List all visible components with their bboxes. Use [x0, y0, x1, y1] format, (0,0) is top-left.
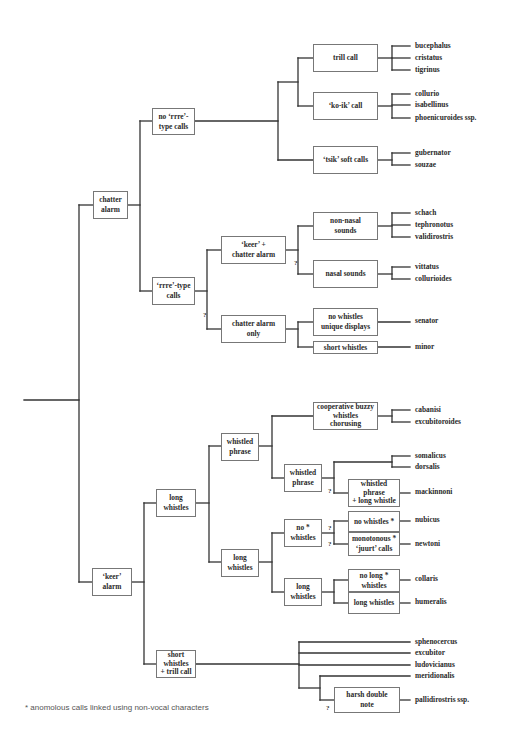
node-long-whistles-4: long whistles — [348, 592, 400, 614]
species-label: pallidirostris ssp. — [415, 695, 469, 705]
species-label: cabanisi — [415, 405, 441, 415]
species-label: schach — [415, 208, 436, 218]
species-label: newtoni — [415, 539, 440, 549]
node-whistled-phrase-2: whistled phrase — [284, 464, 322, 492]
node-whistled-phrase-1: whistled phrase — [221, 433, 259, 461]
node-wp-long-whistle: whistled phrase + long whistle — [348, 479, 400, 507]
species-label: dorsalis — [415, 462, 440, 472]
uncertain-link-mark: ? — [326, 704, 330, 712]
species-label: excubitor — [415, 648, 445, 658]
node-no-star-whistles: no * whistles — [284, 519, 322, 547]
node-long-whistles-3: long whistles — [284, 578, 322, 606]
node-monotonous-juurt: monotonous * ‘juurt’ calls — [348, 532, 400, 556]
node-no-whistles-star: no whistles * — [348, 511, 400, 532]
species-label: humeralis — [415, 597, 447, 607]
tree-connectors — [0, 0, 509, 745]
species-label: tigrinus — [415, 65, 440, 75]
node-short-whistles-1: short whistles — [313, 341, 378, 354]
species-label: collurioides — [415, 274, 452, 284]
species-label: tephronotus — [415, 220, 453, 230]
footnote: * anomolous calls linked using non-vocal… — [25, 703, 209, 712]
species-label: sphenocercus — [415, 637, 457, 647]
node-coop-buzzy: cooperative buzzy whistles chorusing — [313, 402, 378, 430]
species-label: minor — [415, 342, 434, 352]
species-label: isabellinus — [415, 100, 448, 110]
species-label: vittatus — [415, 262, 439, 272]
node-harsh-double: harsh double note — [334, 687, 400, 713]
node-long-whistles-1: long whistles — [156, 489, 196, 517]
node-keer-alarm: ‘keer’ alarm — [92, 568, 132, 596]
node-keer-chatter: ‘keer’ + chatter alarm — [221, 236, 286, 264]
species-label: bucephalus — [415, 41, 451, 51]
species-label: validirostris — [415, 232, 453, 242]
node-no-whistles-unique: no whistles unique displays — [313, 308, 378, 336]
species-label: collurio — [415, 89, 439, 99]
species-label: senator — [415, 316, 438, 326]
node-non-nasal: non-nasal sounds — [313, 212, 378, 240]
uncertain-link-mark: ? — [203, 311, 207, 319]
node-ko-ik-call: ‘ko-ik’ call — [313, 92, 378, 120]
node-long-whistles-2: long whistles — [221, 549, 259, 577]
uncertain-link-mark: ? — [328, 540, 332, 548]
node-trill-call: trill call — [313, 44, 378, 72]
species-label: meridionalis — [415, 671, 454, 681]
species-label: collaris — [415, 574, 438, 584]
node-no-rrre: no ‘rrre’- type calls — [152, 108, 195, 135]
species-label: cristatus — [415, 53, 442, 63]
species-label: mackinnoni — [415, 487, 452, 497]
uncertain-link-mark: ? — [328, 524, 332, 532]
node-chatter-only: chatter alarm only — [221, 315, 286, 343]
node-tsik-soft: ‘tsik’ soft calls — [313, 146, 378, 174]
species-label: excubitoroides — [415, 417, 461, 427]
species-label: gubernator — [415, 148, 451, 158]
species-label: souzae — [415, 160, 436, 170]
species-label: somalicus — [415, 451, 446, 461]
uncertain-link-mark: ? — [294, 259, 298, 267]
node-no-long-whistles: no long * whistles — [348, 569, 400, 592]
species-label: nubicus — [415, 515, 440, 525]
uncertain-link-mark: ? — [328, 487, 332, 495]
node-rrre: ‘rrre’-type calls — [152, 277, 195, 305]
species-label: phoenicuroides ssp. — [415, 113, 476, 123]
node-chatter-alarm: chatter alarm — [93, 191, 128, 219]
species-label: ludovicianus — [415, 660, 455, 670]
node-short-whistles-trill: short whistles + trill call — [156, 650, 196, 678]
node-nasal: nasal sounds — [313, 260, 378, 288]
